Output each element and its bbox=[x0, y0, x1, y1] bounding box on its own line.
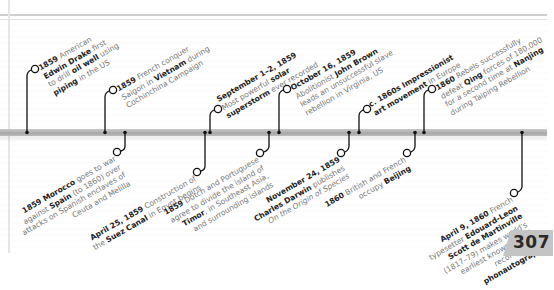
connector-drake bbox=[27, 70, 31, 132]
connector-darwin bbox=[345, 132, 349, 152]
connector-nanjing bbox=[424, 90, 428, 132]
page-number: 307 bbox=[513, 232, 550, 252]
connector-impressionist bbox=[359, 110, 363, 132]
connector-beijing bbox=[411, 132, 415, 152]
connector-saigon bbox=[105, 91, 109, 132]
event-marker-beijing bbox=[403, 149, 410, 156]
event-marker-suez bbox=[193, 168, 200, 175]
event-marker-morocco bbox=[113, 148, 120, 155]
connector-timor bbox=[264, 132, 269, 152]
event-marker-timor bbox=[256, 149, 263, 156]
connector-solar bbox=[210, 110, 214, 132]
event-marker-phonautograph bbox=[510, 189, 517, 196]
connector-phonautograph bbox=[518, 132, 522, 192]
connector-morocco bbox=[121, 132, 125, 151]
connector-brown bbox=[279, 90, 283, 132]
event-marker-darwin bbox=[337, 149, 344, 156]
connector-suez bbox=[201, 132, 205, 171]
